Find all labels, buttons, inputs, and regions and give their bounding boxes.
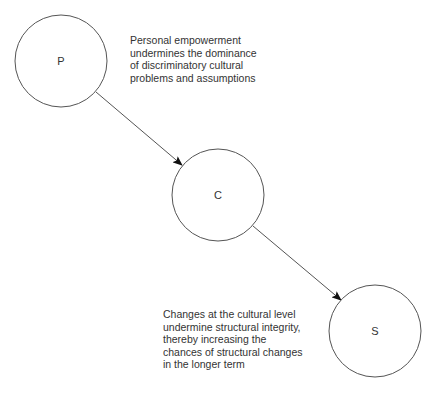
node-p-label: P bbox=[57, 55, 64, 67]
caption-p-to-c: Personal empowerment undermines the domi… bbox=[130, 34, 305, 84]
node-s-label: S bbox=[371, 325, 378, 337]
node-c-label: C bbox=[214, 189, 222, 201]
node-c: C bbox=[172, 149, 264, 241]
edge-p-to-c bbox=[96, 92, 182, 165]
node-p: P bbox=[15, 15, 107, 107]
caption-c-to-s: Changes at the cultural level undermine … bbox=[163, 308, 343, 371]
edge-c-to-s bbox=[253, 226, 341, 300]
